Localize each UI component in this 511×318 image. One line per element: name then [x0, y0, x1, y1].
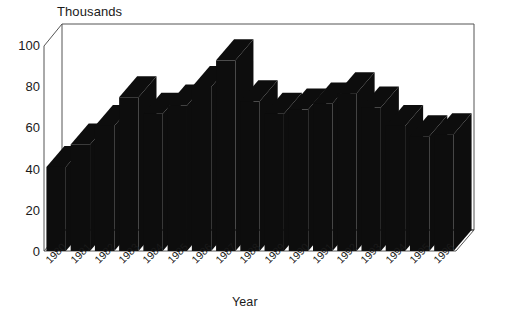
y-axis-tick-label: 100	[5, 38, 40, 53]
bar-front-face	[386, 126, 405, 251]
y-axis-tick-label: 0	[10, 244, 40, 259]
y-axis-tick-label: 40	[10, 162, 40, 177]
bar-front-face	[361, 108, 380, 252]
y-axis-tick-label: 20	[10, 203, 40, 218]
bar-front-face	[240, 101, 259, 251]
bar-chart: 0 20 40 60 80 100 Thousands Year 1980198…	[0, 0, 511, 318]
bar-front-face	[168, 105, 187, 251]
bar-front-face	[265, 114, 284, 251]
x-axis-title: Year	[232, 295, 258, 309]
bar-front-face	[143, 114, 162, 251]
bar-front-face	[71, 144, 90, 251]
bar-front-face	[192, 87, 211, 251]
bar-front-face	[216, 60, 235, 251]
bar-side-face	[454, 113, 472, 251]
bar-front-face	[95, 126, 114, 251]
bar-front-face	[46, 167, 65, 251]
bar-front-face	[119, 97, 138, 251]
bar-front-face	[337, 93, 356, 251]
bar-front-face	[313, 103, 332, 251]
y-axis-title: Thousands	[57, 4, 122, 19]
bar	[434, 113, 471, 251]
bar-front-face	[410, 136, 429, 251]
chart-canvas	[0, 0, 511, 318]
bar-front-face	[289, 110, 308, 251]
y-axis-tick-label: 80	[10, 79, 40, 94]
bar-front-face	[434, 134, 453, 251]
y-axis-tick-label: 60	[10, 120, 40, 135]
